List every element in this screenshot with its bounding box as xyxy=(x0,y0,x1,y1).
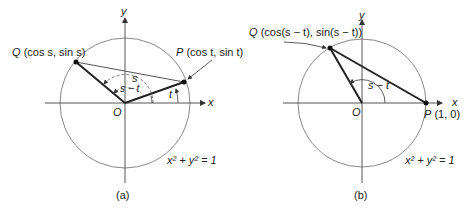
radius-oq-a xyxy=(76,62,125,103)
angle-s-minus-t-label-b: s − t xyxy=(368,80,389,91)
x-axis-label-b: x xyxy=(452,97,458,108)
y-axis-label-a: y xyxy=(121,6,127,17)
equation-a: x² + y² = 1 xyxy=(167,155,217,166)
equation-b: x² + y² = 1 xyxy=(405,155,455,166)
pointer-q-b xyxy=(284,42,326,48)
chord-qp-a xyxy=(76,62,184,82)
point-q-label-a: Q (cos s, sin s) xyxy=(12,47,85,58)
y-axis-label-b: y xyxy=(359,10,365,21)
angle-s-minus-t-label-a: s − t xyxy=(120,84,139,94)
origin-label-b: O xyxy=(352,107,361,118)
point-q-a xyxy=(74,60,79,65)
diagram-canvas xyxy=(0,0,465,210)
angle-t-arc xyxy=(176,89,178,103)
chord-qp-b xyxy=(330,48,426,103)
pointer-p-a xyxy=(188,60,212,79)
origin-label-a: O xyxy=(113,107,122,118)
point-p-label-a: P (cos t, sin t) xyxy=(176,47,243,58)
point-p-a xyxy=(182,80,187,85)
point-p-b xyxy=(424,101,429,106)
angle-t-label: t xyxy=(169,89,172,100)
point-p-label-b: P (1, 0) xyxy=(424,109,460,120)
point-q-b xyxy=(328,46,333,51)
caption-b: (b) xyxy=(354,190,367,201)
x-axis-label-a: x xyxy=(208,97,214,108)
point-q-label-b: Q (cos(s − t), sin(s − t)) xyxy=(249,27,362,38)
caption-a: (a) xyxy=(116,190,129,201)
